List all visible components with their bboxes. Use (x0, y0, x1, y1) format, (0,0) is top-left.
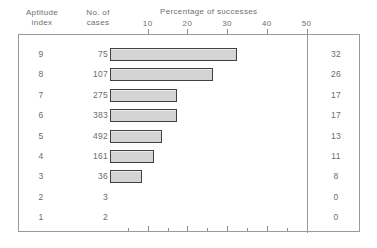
chart-row: 416111 (0, 151, 377, 171)
percentage-value: 11 (312, 151, 360, 161)
chart-row: 549213 (0, 131, 377, 151)
bar (110, 48, 237, 61)
x-axis-tick-label: 30 (215, 19, 239, 28)
bar (110, 68, 213, 81)
bar (110, 89, 177, 102)
aptitude-index-value: 8 (20, 69, 62, 79)
aptitude-index-value: 4 (20, 151, 62, 161)
column-header-no-of-cases: No. of cases (72, 8, 124, 27)
no-of-cases-value: 107 (66, 69, 108, 79)
no-of-cases-value: 75 (66, 49, 108, 59)
column-header-aptitude-index: Aptitude index (14, 8, 70, 27)
percentage-value: 13 (312, 131, 360, 141)
chart-row: 230 (0, 192, 377, 212)
no-of-cases-value: 275 (66, 90, 108, 100)
aptitude-index-value: 9 (20, 49, 62, 59)
aptitude-index-value: 2 (20, 192, 62, 202)
x-axis-tick-label: 20 (175, 19, 199, 28)
percentage-value: 0 (312, 192, 360, 202)
percentage-value: 32 (312, 49, 360, 59)
chart-row: 3368 (0, 171, 377, 191)
percentage-value: 0 (312, 212, 360, 222)
no-of-cases-value: 2 (66, 212, 108, 222)
x-axis-title: Percentage of successes (160, 7, 320, 16)
bar (110, 109, 177, 122)
x-axis-tick-label: 40 (255, 19, 279, 28)
chart-row: 97532 (0, 49, 377, 69)
no-of-cases-value: 36 (66, 171, 108, 181)
no-of-cases-value: 492 (66, 131, 108, 141)
aptitude-index-value: 1 (20, 212, 62, 222)
no-of-cases-value: 161 (66, 151, 108, 161)
percentage-value: 26 (312, 69, 360, 79)
aptitude-index-value: 3 (20, 171, 62, 181)
aptitude-index-value: 6 (20, 110, 62, 120)
chart-row: 727517 (0, 90, 377, 110)
bar (110, 170, 142, 183)
bar (110, 130, 162, 143)
x-axis-tick-label: 10 (136, 19, 160, 28)
chart-row: 810726 (0, 69, 377, 89)
no-of-cases-value: 3 (66, 192, 108, 202)
x-axis-tick-label: 50 (295, 19, 319, 28)
bar (110, 150, 154, 163)
aptitude-index-value: 5 (20, 131, 62, 141)
chart-row: 120 (0, 212, 377, 232)
chart-row: 638317 (0, 110, 377, 130)
no-of-cases-value: 383 (66, 110, 108, 120)
aptitude-index-value: 7 (20, 90, 62, 100)
percentage-value: 17 (312, 110, 360, 120)
bar-chart-figure: Aptitude index No. of cases Percentage o… (0, 0, 377, 248)
percentage-value: 17 (312, 90, 360, 100)
percentage-value: 8 (312, 171, 360, 181)
